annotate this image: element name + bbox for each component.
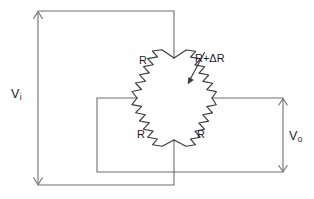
variable-resistor-arrow-head	[188, 77, 193, 83]
wire-bottom-input	[38, 140, 174, 185]
circuit-schematic-svg	[0, 0, 314, 199]
input-voltage-subscript: i	[20, 92, 22, 102]
output-voltage-subscript: o	[298, 134, 303, 144]
wire-left-output	[97, 98, 283, 172]
input-voltage-symbol: V	[11, 87, 19, 101]
resistor-bottom-right-zigzag	[174, 98, 216, 146]
resistor-bottom-right-label: R	[197, 129, 205, 140]
resistor-top-right-label: R+ΔR	[195, 53, 225, 64]
circuit-diagram: Vi Vo R R+ΔR R R	[0, 0, 314, 199]
resistor-top-left-label: R	[139, 55, 147, 66]
output-voltage-symbol: V	[289, 129, 297, 143]
resistor-bottom-left-label: R	[137, 129, 145, 140]
input-voltage-label: Vi	[11, 88, 22, 102]
output-voltage-label: Vo	[289, 130, 302, 144]
